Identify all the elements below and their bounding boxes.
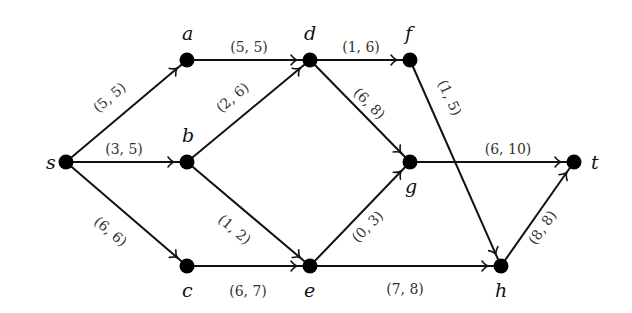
edge-labels-group: (5, 5)(3, 5)(6, 6)(5, 5)(2, 6)(1, 2)(6, … — [90, 39, 560, 299]
edge-label-g-t: (6, 10) — [485, 141, 532, 157]
edge-h-t — [501, 162, 574, 266]
edge-label-s-c: (6, 6) — [91, 213, 130, 249]
edge-line — [310, 60, 410, 162]
edge-label-c-e: (6, 7) — [229, 283, 267, 299]
edge-label-b-e: (1, 2) — [215, 211, 254, 247]
node-label-t: t — [591, 151, 599, 173]
edge-line — [310, 162, 410, 266]
edge-b-d — [187, 60, 310, 162]
node-label-c: c — [182, 279, 193, 301]
edge-label-e-h: (7, 8) — [386, 281, 424, 297]
node-c — [180, 259, 195, 274]
edge-e-h — [310, 261, 501, 271]
node-label-h: h — [495, 279, 507, 301]
edge-label-d-g: (6, 8) — [351, 84, 389, 122]
edge-line — [187, 162, 310, 266]
node-label-b: b — [182, 124, 194, 146]
edge-d-g — [310, 60, 410, 162]
edge-label-b-d: (2, 6) — [213, 79, 252, 115]
node-label-e: e — [304, 279, 315, 301]
edge-label-h-t: (8, 8) — [525, 207, 560, 247]
edge-label-d-f: (1, 6) — [342, 39, 380, 55]
node-label-f: f — [403, 22, 415, 44]
node-t — [567, 155, 582, 170]
edge-b-e — [187, 162, 310, 266]
edge-line — [501, 162, 574, 266]
edge-label-s-a: (5, 5) — [90, 79, 129, 115]
edge-a-d — [187, 55, 310, 65]
node-d — [303, 53, 318, 68]
node-s — [59, 155, 74, 170]
flow-network-diagram: (5, 5)(3, 5)(6, 6)(5, 5)(2, 6)(1, 2)(6, … — [0, 0, 632, 313]
node-a — [180, 53, 195, 68]
node-f — [403, 53, 418, 68]
edge-line — [187, 60, 310, 162]
node-label-a: a — [182, 22, 193, 44]
node-g — [403, 155, 418, 170]
edges-group — [66, 55, 574, 271]
edge-label-f-h: (1, 5) — [435, 77, 465, 118]
edge-label-a-d: (5, 5) — [230, 39, 268, 55]
edge-label-e-g: (0, 3) — [348, 207, 386, 245]
node-e — [303, 259, 318, 274]
edge-label-s-b: (3, 5) — [105, 141, 143, 157]
edge-g-t — [410, 157, 574, 167]
edge-c-e — [187, 261, 310, 271]
edge-s-b — [66, 157, 187, 167]
node-b — [180, 155, 195, 170]
edge-e-g — [310, 162, 410, 266]
node-label-s: s — [46, 151, 56, 173]
edge-d-f — [310, 55, 410, 65]
node-label-d: d — [304, 22, 316, 44]
edge-s-c — [66, 162, 187, 266]
node-label-g: g — [405, 175, 417, 197]
edge-line — [66, 162, 187, 266]
node-h — [494, 259, 509, 274]
